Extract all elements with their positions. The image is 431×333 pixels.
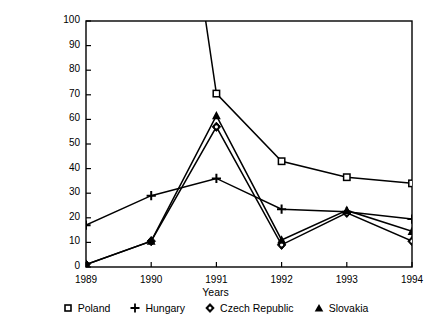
chart-figure: Annual rate of change in per cent Years … xyxy=(0,0,431,333)
legend-label-slovakia: Slovakia xyxy=(329,302,369,314)
y-tick-label: 30 xyxy=(50,186,80,197)
diamond-marker-center xyxy=(410,240,413,243)
legend-label-poland: Poland xyxy=(78,302,111,314)
y-tick-label: 70 xyxy=(50,88,80,99)
plot-border xyxy=(86,21,412,267)
square-marker-icon xyxy=(344,174,350,180)
legend-item-poland[interactable]: Poland xyxy=(63,302,111,314)
y-tick-label: 60 xyxy=(50,112,80,123)
square-marker-icon xyxy=(213,90,219,96)
series-line-slovakia xyxy=(86,116,412,265)
legend-label-hungary: Hungary xyxy=(145,302,185,314)
chart-legend: Poland Hungary Czech Republic Slovakia xyxy=(0,302,431,314)
square-marker-icon xyxy=(63,303,73,313)
y-tick-label: 80 xyxy=(50,63,80,74)
y-tick-label: 40 xyxy=(50,162,80,173)
plus-marker-icon xyxy=(277,205,286,214)
legend-label-czech-republic: Czech Republic xyxy=(220,302,294,314)
diamond-marker-center xyxy=(280,243,283,246)
plus-marker-icon xyxy=(407,214,416,223)
plus-marker-icon xyxy=(130,303,140,313)
triangle-marker-icon xyxy=(342,206,351,214)
series-line-czech-republic xyxy=(86,127,412,265)
square-marker-icon xyxy=(278,158,284,164)
x-tick-label: 1994 xyxy=(392,274,431,285)
series-group xyxy=(81,0,416,269)
y-tick-label: 90 xyxy=(50,39,80,50)
x-tick-label: 1989 xyxy=(66,274,106,285)
x-tick-label: 1993 xyxy=(327,274,367,285)
x-tick-label: 1991 xyxy=(196,274,236,285)
y-tick-label: 100 xyxy=(50,14,80,25)
y-tick-label: 20 xyxy=(50,211,80,222)
triangle-marker-icon xyxy=(314,303,324,313)
x-tick-label: 1990 xyxy=(131,274,171,285)
y-tick-label: 0 xyxy=(50,260,80,271)
legend-item-hungary[interactable]: Hungary xyxy=(130,302,185,314)
plus-marker-icon xyxy=(81,221,90,230)
legend-item-slovakia[interactable]: Slovakia xyxy=(314,302,369,314)
x-axis-title: Years xyxy=(0,286,431,298)
series-line-poland xyxy=(151,0,412,183)
triangle-marker-icon xyxy=(212,111,221,119)
x-tick-label: 1992 xyxy=(262,274,302,285)
diamond-marker-center xyxy=(215,125,218,128)
legend-item-czech-republic[interactable]: Czech Republic xyxy=(205,302,294,314)
plus-marker-icon xyxy=(147,191,156,200)
plus-marker-icon xyxy=(212,174,221,183)
y-tick-label: 10 xyxy=(50,235,80,246)
diamond-marker-icon xyxy=(205,303,215,313)
y-tick-label: 50 xyxy=(50,137,80,148)
square-marker-icon xyxy=(409,180,415,186)
